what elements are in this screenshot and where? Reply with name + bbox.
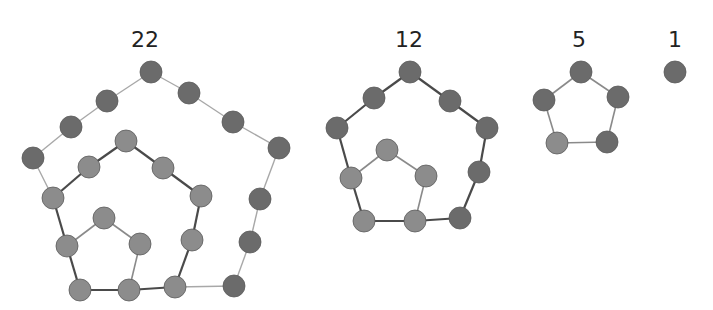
graph-node bbox=[115, 130, 137, 152]
graph-node bbox=[164, 276, 186, 298]
graph-node bbox=[239, 231, 261, 253]
graph-components-diagram: 221251 bbox=[0, 0, 713, 310]
graph-node bbox=[140, 61, 162, 83]
graph-node bbox=[326, 117, 348, 139]
graph-node bbox=[607, 86, 629, 108]
graph-node bbox=[223, 275, 245, 297]
graph-node bbox=[93, 207, 115, 229]
graph-component-12: 12 bbox=[326, 27, 498, 232]
graph-node bbox=[249, 188, 271, 210]
graph-node bbox=[363, 87, 385, 109]
graph-component-1: 1 bbox=[664, 27, 686, 83]
graph-node bbox=[570, 61, 592, 83]
graph-node bbox=[69, 279, 91, 301]
graph-node bbox=[56, 235, 78, 257]
graph-node bbox=[178, 82, 200, 104]
graph-node bbox=[664, 61, 686, 83]
graph-node bbox=[22, 147, 44, 169]
graph-node bbox=[415, 165, 437, 187]
graph-node bbox=[449, 207, 471, 229]
graph-component-22: 22 bbox=[22, 27, 290, 301]
graph-node bbox=[152, 157, 174, 179]
graph-node bbox=[181, 229, 203, 251]
graph-node bbox=[439, 90, 461, 112]
graph-node bbox=[118, 279, 140, 301]
component-size-label: 22 bbox=[131, 27, 159, 52]
graph-node bbox=[129, 233, 151, 255]
graph-node bbox=[476, 117, 498, 139]
graph-node bbox=[78, 156, 100, 178]
graph-node bbox=[399, 61, 421, 83]
graph-node bbox=[468, 161, 490, 183]
graph-node bbox=[596, 131, 618, 153]
component-size-label: 1 bbox=[668, 27, 682, 52]
component-size-label: 5 bbox=[572, 27, 586, 52]
graph-component-5: 5 bbox=[533, 27, 629, 154]
graph-node bbox=[96, 90, 118, 112]
graph-node bbox=[533, 89, 555, 111]
graph-node bbox=[60, 116, 82, 138]
graph-node bbox=[42, 187, 64, 209]
graph-node bbox=[268, 137, 290, 159]
graph-node bbox=[353, 210, 375, 232]
graph-node bbox=[340, 167, 362, 189]
graph-node bbox=[222, 111, 244, 133]
graph-node bbox=[376, 139, 398, 161]
component-size-label: 12 bbox=[395, 27, 423, 52]
graph-node bbox=[404, 210, 426, 232]
graph-node bbox=[546, 132, 568, 154]
graph-node bbox=[190, 185, 212, 207]
